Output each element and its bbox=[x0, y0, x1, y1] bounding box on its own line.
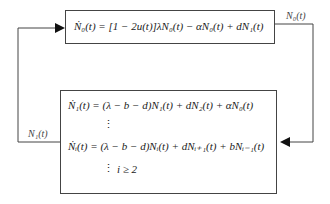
ni-equation: Ṅᵢ(t) = (λ − b − d)Nᵢ(t) + dNᵢ₊₁(t) + bN… bbox=[68, 140, 264, 153]
arrow-right-icon bbox=[55, 23, 65, 33]
n0-equation: Ṅ₀(t) = [1 − 2u(t)]λN₀(t) − αN₀(t) + dN₁… bbox=[74, 20, 263, 32]
vertical-dots: ⋮ bbox=[103, 162, 114, 175]
n0-edge-label: N₀(t) bbox=[286, 10, 306, 21]
bottom-equation-box: Ṅ₁(t) = (λ − b − d)N₁(t) + dN₂(t) + αN₀(… bbox=[60, 90, 277, 194]
n1-edge-label: N₁(t) bbox=[28, 128, 48, 139]
top-equation-box: Ṅ₀(t) = [1 − 2u(t)]λN₀(t) − αN₀(t) + dN₁… bbox=[65, 10, 275, 44]
index-condition: i ≥ 2 bbox=[117, 163, 137, 175]
vertical-dots: ⋮ bbox=[103, 118, 114, 131]
arrow-left-icon bbox=[280, 137, 290, 147]
n1-equation: Ṅ₁(t) = (λ − b − d)N₁(t) + dN₂(t) + αN₀(… bbox=[68, 99, 253, 111]
